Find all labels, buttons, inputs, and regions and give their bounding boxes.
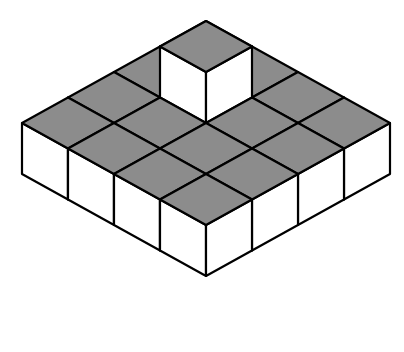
isometric-cube-figure [0,0,404,352]
cube-stack-diagram [0,0,404,352]
